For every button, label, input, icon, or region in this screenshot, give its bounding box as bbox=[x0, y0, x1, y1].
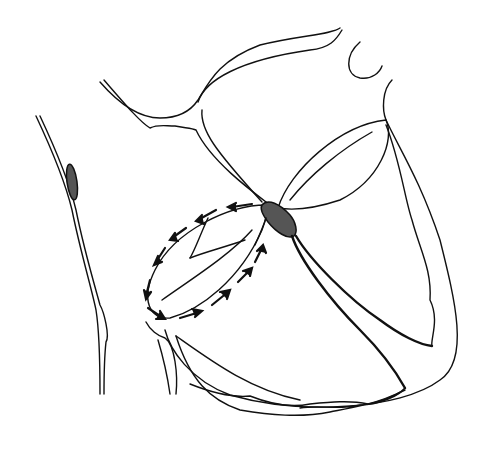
great-vessels bbox=[100, 28, 392, 205]
left-valve-chamber bbox=[146, 205, 300, 400]
bundle-branches bbox=[255, 202, 432, 388]
heart-illustration bbox=[0, 0, 502, 453]
heart-diagram bbox=[0, 0, 502, 453]
left-vessel bbox=[36, 116, 107, 394]
sa-node bbox=[65, 163, 80, 200]
right-valve-chamber bbox=[165, 120, 457, 407]
av-node bbox=[261, 202, 296, 237]
ventricle-outline bbox=[176, 336, 405, 415]
